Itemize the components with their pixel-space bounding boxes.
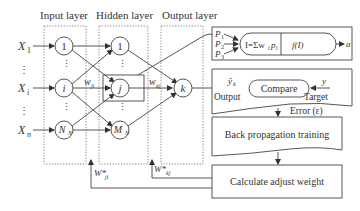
compare-label: Compare (261, 83, 298, 94)
input-node-N: N N (55, 121, 73, 139)
hidden-node-j: j (111, 79, 129, 97)
input-xn: X n (17, 123, 31, 139)
svg-text:ji: ji (104, 174, 109, 180)
ellipsis: ⋮ (118, 59, 127, 69)
output-layer-title: Output layer (162, 9, 218, 21)
input-layer-title: Input layer (40, 9, 88, 21)
sum-formula: I=Σw i p i (245, 40, 278, 51)
hidden-layer-title: Hidden layer (96, 9, 153, 21)
input-x1: X 1 (17, 39, 31, 55)
svg-text:1: 1 (117, 40, 123, 52)
svg-text:kj: kj (166, 170, 171, 176)
svg-text:kj: kj (156, 83, 161, 89)
svg-text:I=Σw: I=Σw (245, 40, 265, 50)
neural-network-diagram: Input layer Hidden layer Output layer X … (0, 0, 360, 211)
ellipsis: ⋮ (19, 64, 29, 75)
svg-text:ŷ: ŷ (227, 76, 232, 86)
svg-text:1: 1 (221, 34, 224, 40)
svg-text:n: n (27, 130, 31, 139)
ellipsis: ⋮ (118, 102, 127, 112)
input-xi: X i (17, 81, 29, 97)
svg-text:w: w (84, 76, 91, 87)
input-node-i: i (55, 79, 73, 97)
svg-text:X: X (17, 123, 26, 137)
svg-text:k: k (233, 81, 236, 87)
adjust-weight-label: Calculate adjust weight (230, 176, 324, 187)
hidden-node-1: 1 (111, 37, 129, 55)
svg-text:1: 1 (61, 40, 67, 52)
svg-text:N: N (58, 124, 67, 135)
svg-text:P: P (214, 29, 221, 39)
output-node-k: k (174, 79, 192, 97)
ellipsis: ⋮ (62, 59, 71, 69)
neuron-output-a: a (346, 39, 351, 49)
svg-text:w: w (149, 76, 156, 87)
svg-text:2: 2 (221, 44, 224, 50)
svg-text:P: P (214, 39, 221, 49)
backprop-label: Back propagation training (225, 129, 329, 140)
hidden-node-M: M N (111, 121, 130, 139)
svg-text:M: M (113, 124, 123, 135)
weight-wji: w ji (84, 76, 95, 89)
target-y: y (321, 76, 326, 86)
feedback-wji: W* ji (91, 160, 212, 188)
svg-text:W*: W* (154, 164, 166, 174)
feedback-wkj: W* kj (152, 160, 212, 178)
ellipsis: ⋮ (19, 105, 29, 116)
svg-text:3: 3 (221, 54, 224, 60)
ellipsis: ⋮ (62, 102, 71, 112)
svg-text:ji: ji (90, 83, 95, 89)
neuron-inputs: P 1 P 2 P 3 (214, 29, 224, 60)
svg-text:i: i (27, 88, 29, 97)
input-node-1: 1 (55, 37, 73, 55)
activation-function: f(I) (292, 40, 304, 50)
svg-text:X: X (17, 39, 26, 53)
error-label: Error (ε) (290, 106, 323, 117)
svg-text:P: P (214, 49, 221, 59)
output-label: Output (214, 92, 241, 102)
svg-text:1: 1 (27, 46, 31, 55)
target-label: Target (304, 92, 328, 102)
weight-wkj: w kj (149, 76, 161, 89)
svg-text:X: X (17, 81, 26, 95)
svg-text:i: i (62, 82, 65, 94)
